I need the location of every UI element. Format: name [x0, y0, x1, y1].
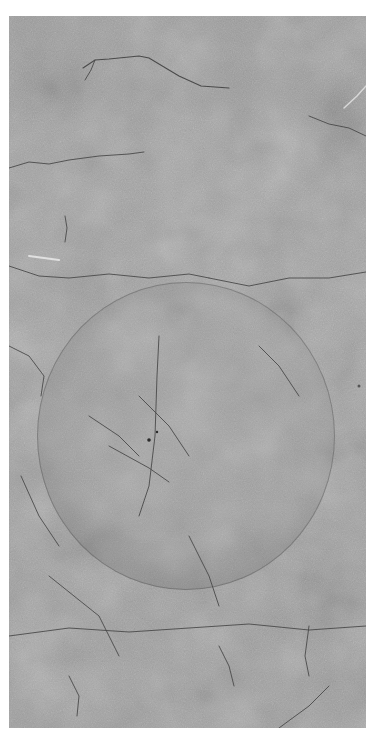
- image-description: Grayscale photo of a cracked concrete su…: [9, 16, 10, 17]
- concrete-texture-photo: Grayscale photo of a cracked concrete su…: [9, 16, 366, 728]
- crack-lines: [9, 16, 366, 728]
